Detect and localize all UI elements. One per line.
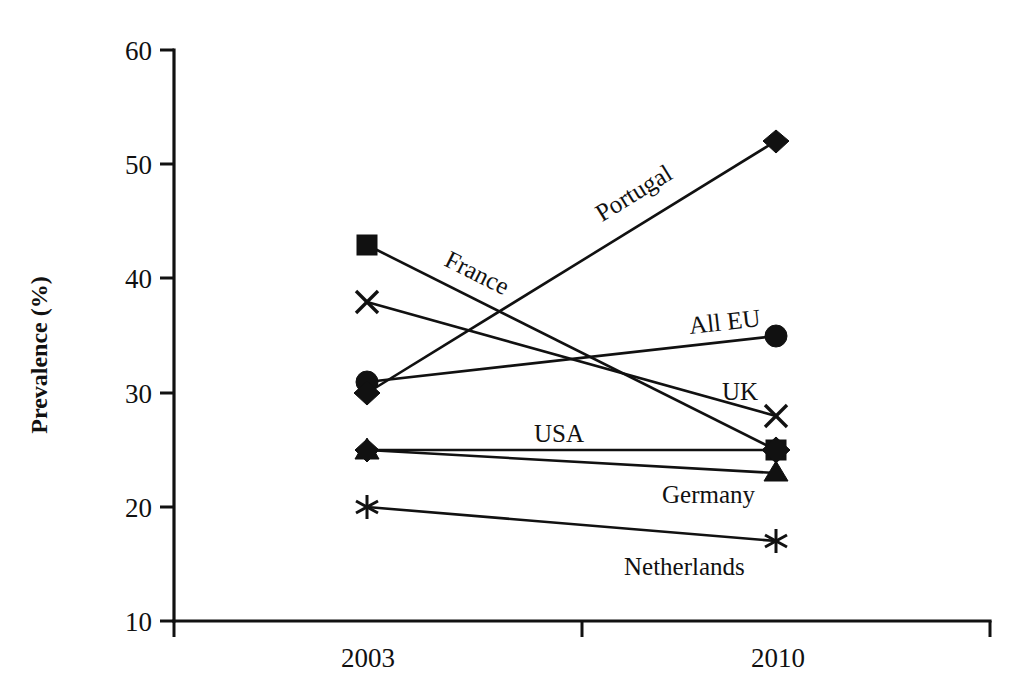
- series-label-portugal: Portugal: [590, 159, 676, 226]
- series-label-uk: UK: [722, 378, 758, 405]
- series-label-netherlands: Netherlands: [624, 553, 745, 580]
- marker-portugal-2010: [763, 130, 789, 153]
- series-line-netherlands: [367, 507, 776, 541]
- series-line-portugal: [367, 141, 776, 393]
- x-cat-label-2003: 2003: [341, 643, 395, 673]
- series-label-all-eu: All EU: [688, 304, 762, 339]
- marker-uk-2003: [356, 291, 378, 313]
- prevalence-line-chart: 60 50 40 30 20 10 Prevalence (%) 2003 20…: [0, 0, 1018, 688]
- marker-france-2003: [357, 235, 377, 255]
- y-tick-label-60: 60: [125, 36, 152, 66]
- markers-2010: [762, 130, 790, 553]
- y-axis: 60 50 40 30 20 10 Prevalence (%): [26, 36, 174, 637]
- chart-container: 60 50 40 30 20 10 Prevalence (%) 2003 20…: [0, 0, 1018, 688]
- marker-uk-2010: [765, 405, 787, 427]
- series-label-france: France: [441, 245, 514, 300]
- y-tick-label-10: 10: [125, 607, 152, 637]
- y-tick-label-50: 50: [125, 150, 152, 180]
- y-tick-label-20: 20: [125, 493, 152, 523]
- series-label-germany: Germany: [662, 481, 756, 508]
- x-axis: 2003 2010: [174, 621, 990, 673]
- y-axis-title: Prevalence (%): [26, 276, 52, 434]
- marker-all-eu-2010: [765, 325, 787, 347]
- series-label-usa: USA: [534, 420, 584, 447]
- markers-2003: [354, 235, 380, 519]
- x-cat-label-2010: 2010: [751, 643, 805, 673]
- y-tick-label-30: 30: [125, 379, 152, 409]
- y-tick-label-40: 40: [125, 264, 152, 294]
- series-line-germany: [367, 450, 776, 473]
- marker-germany-2010: [764, 461, 788, 481]
